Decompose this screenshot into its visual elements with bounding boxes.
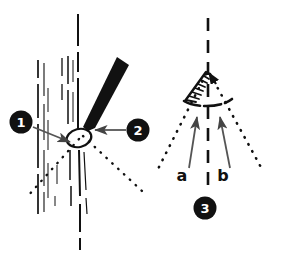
callout-3[interactable]: 3 <box>194 197 217 220</box>
label-b: b <box>217 166 228 185</box>
callout-2[interactable]: 2 <box>127 119 150 142</box>
figure-container: a b 1 2 3 <box>0 0 289 260</box>
callout-1[interactable]: 1 <box>10 111 33 134</box>
callout-2-label: 2 <box>133 123 142 138</box>
label-a: a <box>177 166 188 185</box>
diagram-canvas: a b 1 2 3 <box>0 0 289 260</box>
callout-3-label: 3 <box>200 201 209 216</box>
callout-1-label: 1 <box>16 115 25 130</box>
